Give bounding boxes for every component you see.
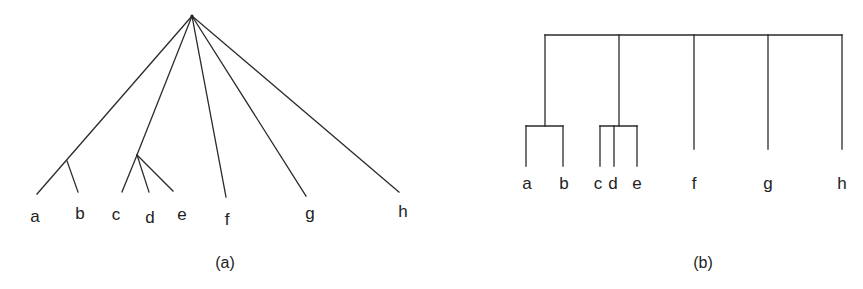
leaf-label-f: f (225, 210, 230, 229)
dendro-label-d: d (608, 174, 617, 193)
leaf-label-c: c (112, 205, 121, 224)
leaf-label-b: b (75, 204, 84, 223)
edge-root-cde (137, 16, 192, 155)
dendro-label-g: g (763, 174, 772, 193)
edge-root-a (37, 16, 192, 194)
root-node (190, 14, 193, 17)
dendro-label-a: a (522, 174, 532, 193)
tree-figure: a b c d e f g h (a) a b c d e f g h (b) (0, 0, 863, 289)
caption-a: (a) (215, 254, 235, 271)
edge-ab-b (67, 161, 78, 192)
leaf-label-d: d (145, 208, 154, 227)
dendro-label-b: b (559, 174, 568, 193)
leaf-label-e: e (177, 205, 186, 224)
dendro-label-e: e (632, 174, 641, 193)
panel-b-dendrogram: a b c d e f g h (b) (522, 35, 846, 271)
leaf-label-h: h (398, 202, 407, 221)
dendro-label-c: c (594, 174, 603, 193)
leaf-label-g: g (305, 204, 314, 223)
edge-cde-c (122, 155, 137, 192)
dendro-label-h: h (837, 174, 846, 193)
caption-b: (b) (693, 254, 713, 271)
dendro-label-f: f (692, 174, 697, 193)
panel-a-tree: a b c d e f g h (a) (30, 14, 407, 271)
leaf-label-a: a (30, 207, 40, 226)
edge-root-h (192, 16, 399, 192)
